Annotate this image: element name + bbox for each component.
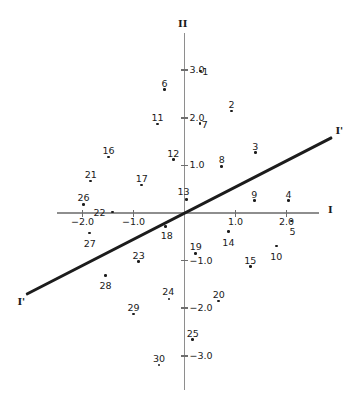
y-tick bbox=[181, 260, 188, 262]
data-point-label: 16 bbox=[103, 146, 115, 156]
data-point-label: 2 bbox=[228, 100, 235, 110]
x-axis-label: I bbox=[328, 205, 333, 215]
data-point-label: 30 bbox=[153, 354, 165, 364]
data-point bbox=[132, 313, 135, 316]
data-point-label: 10 bbox=[270, 252, 282, 262]
data-point bbox=[163, 88, 166, 91]
y-tick bbox=[181, 165, 188, 167]
data-point bbox=[82, 203, 85, 206]
data-point-label: 18 bbox=[161, 231, 173, 241]
data-point-label: 23 bbox=[133, 251, 145, 261]
data-point bbox=[227, 230, 230, 233]
y-tick-label: −2.0 bbox=[190, 303, 213, 313]
data-point bbox=[254, 151, 257, 154]
data-point-label: 27 bbox=[84, 239, 96, 249]
y-tick-label: −1.0 bbox=[190, 256, 213, 266]
data-point bbox=[253, 199, 256, 202]
data-point bbox=[230, 110, 233, 113]
data-point-label: 25 bbox=[187, 329, 199, 339]
y-tick-label: 1.0 bbox=[190, 160, 205, 170]
regression-line-label-lower-left: I' bbox=[17, 297, 25, 307]
data-point bbox=[140, 184, 143, 187]
data-point-label: 7 bbox=[201, 120, 208, 130]
data-point-label: 17 bbox=[136, 174, 148, 184]
data-point-label: 14 bbox=[222, 238, 234, 248]
data-point bbox=[107, 156, 110, 159]
data-point bbox=[172, 158, 175, 161]
y-tick bbox=[181, 117, 188, 119]
data-point bbox=[275, 245, 278, 248]
data-point bbox=[88, 232, 91, 235]
data-point bbox=[191, 338, 194, 341]
data-point bbox=[220, 165, 223, 168]
data-point bbox=[249, 265, 252, 268]
data-point-label: 6 bbox=[161, 79, 168, 89]
data-point-label: 19 bbox=[190, 242, 202, 252]
data-point-label: 4 bbox=[285, 190, 292, 200]
data-point-label: 9 bbox=[251, 190, 258, 200]
y-tick bbox=[181, 69, 188, 71]
data-point bbox=[168, 298, 171, 301]
data-point-label: 11 bbox=[151, 113, 163, 123]
x-tick-label: 2.0 bbox=[274, 217, 300, 227]
data-point-label: 15 bbox=[244, 256, 256, 266]
data-point-label: 26 bbox=[78, 193, 90, 203]
y-tick-label: −3.0 bbox=[190, 351, 213, 361]
y-axis-label: II bbox=[178, 19, 187, 29]
data-point-label: 24 bbox=[162, 287, 174, 297]
data-point bbox=[158, 364, 161, 367]
x-tick-label: −1.0 bbox=[121, 217, 147, 227]
data-point-label: 3 bbox=[252, 142, 259, 152]
data-point-label: 29 bbox=[128, 303, 140, 313]
data-point-label: 12 bbox=[167, 149, 179, 159]
data-point bbox=[164, 225, 167, 228]
data-point bbox=[137, 260, 140, 263]
data-point bbox=[104, 274, 107, 277]
data-point-label: 21 bbox=[85, 170, 97, 180]
data-point bbox=[89, 180, 92, 183]
data-point-label: 22 bbox=[94, 208, 106, 218]
data-point bbox=[194, 252, 197, 255]
data-point bbox=[156, 123, 159, 126]
y-tick bbox=[181, 307, 188, 309]
data-point-label: 8 bbox=[218, 155, 225, 165]
data-point-label: 28 bbox=[99, 281, 111, 291]
data-point-label: 20 bbox=[213, 290, 225, 300]
data-point-label: 13 bbox=[178, 187, 190, 197]
data-point-label: 5 bbox=[289, 227, 296, 237]
data-point bbox=[287, 199, 290, 202]
data-point-label: 1 bbox=[202, 67, 209, 77]
x-tick-label: 1.0 bbox=[223, 217, 249, 227]
data-point bbox=[217, 300, 220, 303]
scatter-plot-figure: I II −2.0−1.01.02.0 3.02.01.0−1.0−2.0−3.… bbox=[0, 0, 355, 408]
y-tick bbox=[181, 355, 188, 357]
regression-line-label-upper-right: I' bbox=[335, 126, 343, 136]
x-tick-label: −2.0 bbox=[70, 217, 96, 227]
data-point bbox=[185, 198, 188, 201]
